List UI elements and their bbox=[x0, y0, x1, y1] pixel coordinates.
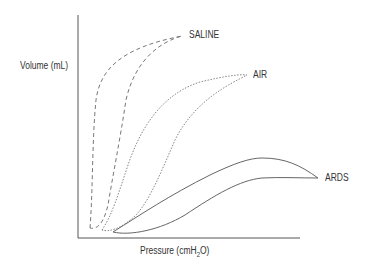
pressure-volume-diagram: Volume (mL) Pressure (cmH2O) SALINE AIR … bbox=[0, 0, 370, 268]
x-axis-label: Pressure (cmH2O) bbox=[140, 245, 209, 258]
ards-label: ARDS bbox=[325, 172, 349, 183]
diagram-canvas bbox=[0, 0, 370, 268]
x-axis-label-main: Pressure (cmH bbox=[140, 245, 197, 256]
x-axis-label-end: O) bbox=[200, 245, 209, 256]
air-curve bbox=[102, 75, 247, 231]
saline-label: SALINE bbox=[189, 29, 219, 40]
air-label: AIR bbox=[253, 69, 267, 80]
ards-curve bbox=[113, 158, 318, 233]
y-axis-label: Volume (mL) bbox=[20, 60, 68, 71]
saline-curve bbox=[90, 36, 182, 228]
